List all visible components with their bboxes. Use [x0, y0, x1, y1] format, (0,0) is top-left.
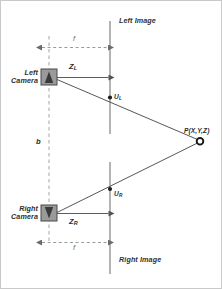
u-right-subscript: R: [119, 193, 123, 198]
diagram-canvas: Left Image Right Image Left Camera Right…: [0, 0, 222, 289]
world-point-label: P(X,Y,Z): [184, 128, 209, 135]
left-camera-label: Left Camera: [3, 69, 38, 84]
baseline-label: b: [36, 138, 41, 146]
z-left-label: ZL: [69, 63, 77, 72]
u-right-point-marker: [108, 187, 112, 191]
u-left-label: UL: [114, 94, 122, 101]
left-camera-label-line2: Camera: [11, 76, 38, 85]
world-point-marker: [197, 138, 204, 145]
z-right-subscript: R: [74, 220, 78, 226]
right-camera-label: Right Camera: [1, 205, 38, 220]
focal-length-bottom-label: f: [73, 244, 75, 252]
focal-length-top-label: f: [73, 35, 75, 43]
z-right-label: ZR: [69, 218, 78, 227]
right-image-plane-label: Right Image: [119, 256, 161, 264]
stereo-geometry-svg: [1, 1, 222, 289]
u-left-subscript: L: [119, 96, 122, 101]
z-left-subscript: L: [74, 65, 77, 71]
ray-right-camera-to-point: [57, 143, 198, 213]
left-image-plane-label: Left Image: [119, 17, 156, 25]
ray-left-camera-to-point: [57, 80, 198, 140]
u-right-label: UR: [114, 191, 122, 198]
right-camera-label-line2: Camera: [11, 212, 38, 221]
u-left-point-marker: [108, 95, 112, 99]
